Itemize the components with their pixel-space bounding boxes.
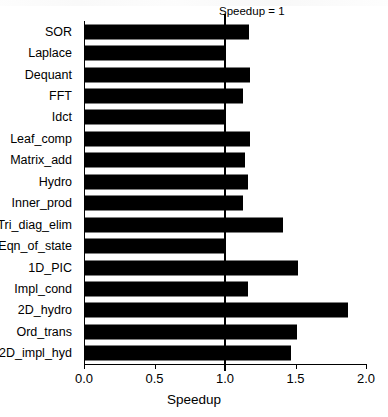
bar bbox=[84, 239, 225, 254]
bar bbox=[84, 174, 248, 189]
x-axis-tick-label: 1.5 bbox=[286, 371, 304, 386]
bar bbox=[84, 46, 225, 61]
y-axis-tick-label: Leaf_comp bbox=[10, 133, 72, 146]
bar bbox=[84, 303, 348, 318]
x-axis-tick bbox=[155, 365, 156, 369]
reference-line bbox=[224, 14, 226, 364]
x-axis-tick bbox=[366, 365, 367, 369]
x-axis-tick bbox=[296, 365, 297, 369]
bar bbox=[84, 346, 291, 361]
bar bbox=[84, 110, 225, 125]
y-axis-tick-label: 1D_PIC bbox=[28, 261, 72, 274]
y-axis-tick-label: Eqn_of_state bbox=[0, 240, 72, 253]
y-axis-tick-label: Dequant bbox=[25, 68, 72, 81]
y-axis-tick-label: Laplace bbox=[28, 47, 72, 60]
top-edge-artifact bbox=[0, 0, 388, 6]
y-axis-tick-label: FFT bbox=[49, 90, 72, 103]
bar bbox=[84, 89, 243, 104]
y-axis-tick-label: 2D_impl_hyd bbox=[0, 347, 72, 360]
x-axis-title: Speedup bbox=[0, 392, 388, 407]
y-axis-tick-label: Inner_prod bbox=[12, 197, 72, 210]
y-axis-tick-label: Tri_diag_elim bbox=[0, 218, 72, 231]
y-axis-tick-labels: SORLaplaceDequantFFTIdctLeaf_compMatrix_… bbox=[0, 21, 80, 364]
bar bbox=[84, 153, 245, 168]
y-axis-tick-label: Impl_cond bbox=[14, 283, 72, 296]
y-axis-tick-label: 2D_hydro bbox=[18, 304, 72, 317]
reference-line-label: Speedup = 1 bbox=[219, 5, 285, 17]
bar bbox=[84, 260, 298, 275]
y-axis-tick-label: SOR bbox=[45, 25, 72, 38]
bar bbox=[84, 281, 248, 296]
y-axis-tick-label: Ord_trans bbox=[16, 326, 72, 339]
bar bbox=[84, 324, 297, 339]
chart-figure: SORLaplaceDequantFFTIdctLeaf_compMatrix_… bbox=[0, 0, 388, 417]
y-axis-tick-label: Hydro bbox=[39, 176, 72, 189]
bar bbox=[84, 217, 283, 232]
x-axis-tick-label: 1.0 bbox=[216, 371, 234, 386]
x-axis-tick-label: 0.0 bbox=[75, 371, 93, 386]
y-axis-tick-label: Idct bbox=[52, 111, 72, 124]
x-axis-tick-label: 2.0 bbox=[357, 371, 375, 386]
bar bbox=[84, 196, 243, 211]
x-axis-tick bbox=[84, 365, 85, 369]
y-axis-tick-label: Matrix_add bbox=[10, 154, 72, 167]
x-axis-tick-label: 0.5 bbox=[145, 371, 163, 386]
